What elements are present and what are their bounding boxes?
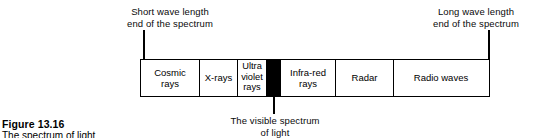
band-label: Cosmic rays [152,67,188,89]
band-x-rays: X-rays [200,60,238,96]
visible-spectrum-annotation: The visible spectrum of light [213,115,337,138]
band-label: Ultra violet rays [239,60,265,93]
figure-caption: Figure 13.16 The spectrum of light [2,118,202,138]
long-wave-leader-line [488,30,490,60]
band-label: X-rays [203,72,234,83]
band-radio-waves: Radio waves [394,60,488,96]
band-visible-spectrum [267,60,281,96]
band-cosmic-rays: Cosmic rays [141,60,200,96]
spectrum-bar: Cosmic rays X-rays Ultra violet rays Inf… [140,59,490,97]
band-radar: Radar [336,60,394,96]
short-wave-length-annotation: Short wave length end of the spectrum [108,6,232,29]
long-wave-length-annotation: Long wave length end of the spectrum [414,6,537,29]
band-label: Radio waves [412,72,470,83]
band-label: Infra-red rays [288,67,328,89]
figure-number: Figure 13.16 [2,118,202,130]
band-label: Radar [350,72,380,83]
electromagnetic-spectrum-figure: Short wave length end of the spectrum Lo… [0,0,537,138]
short-wave-leader-line [143,30,145,60]
band-infra-red-rays: Infra-red rays [281,60,336,96]
figure-subtitle: The spectrum of light [2,130,202,138]
visible-spectrum-leader-line [273,96,275,114]
band-ultra-violet-rays: Ultra violet rays [238,60,267,96]
